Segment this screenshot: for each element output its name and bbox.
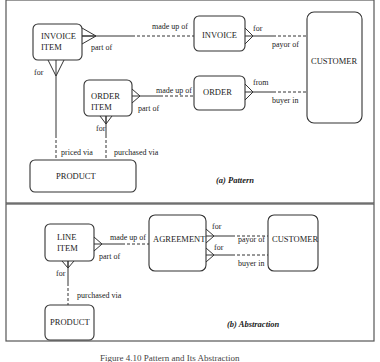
label-part-of: part of — [138, 104, 159, 113]
crows-foot-icon — [100, 116, 112, 124]
svg-text:PRODUCT: PRODUCT — [50, 317, 90, 327]
svg-text:PRODUCT: PRODUCT — [56, 171, 96, 181]
label-for: for — [212, 222, 222, 231]
label-for: for — [214, 243, 224, 252]
label-for: for — [96, 124, 106, 133]
label-payor-of: payor of — [238, 235, 265, 244]
svg-text:LINE: LINE — [57, 232, 76, 242]
label-purchased-via: purchased via — [77, 291, 122, 300]
label-payor-of: payor of — [272, 40, 299, 49]
svg-text:ITEM: ITEM — [41, 42, 62, 52]
svg-text:ITEM: ITEM — [57, 243, 78, 253]
svg-text:ORDER: ORDER — [203, 87, 232, 97]
panel-b: made up of part of for payor of for buye… — [45, 215, 318, 340]
svg-text:CUSTOMER: CUSTOMER — [311, 56, 357, 66]
label-purchased-via: purchased via — [114, 148, 159, 157]
label-from: from — [253, 78, 269, 87]
svg-text:ORDER: ORDER — [91, 91, 120, 101]
label-made-up-of: made up of — [110, 233, 146, 242]
entity-product: PRODUCT — [45, 305, 94, 340]
label-for: for — [253, 24, 263, 33]
crows-foot-icon — [62, 261, 74, 268]
label-part-of: part of — [91, 43, 112, 52]
panel-a: made up of part of for payor of made up … — [30, 12, 362, 192]
label-made-up-of: made up of — [156, 86, 192, 95]
svg-text:INVOICE: INVOICE — [41, 31, 76, 41]
entity-line-item: LINE ITEM — [45, 224, 94, 261]
panel-a-caption: (a) Pattern — [216, 175, 254, 185]
entity-product: PRODUCT — [30, 160, 136, 192]
crows-foot-icon — [82, 28, 96, 44]
label-for: for — [34, 68, 44, 77]
svg-text:INVOICE: INVOICE — [202, 30, 237, 40]
label-part-of: part of — [99, 252, 120, 261]
svg-text:AGREEMENT: AGREEMENT — [153, 234, 206, 244]
entity-customer: CUSTOMER — [268, 215, 318, 271]
entity-agreement: AGREEMENT — [149, 215, 206, 271]
label-for: for — [56, 269, 66, 278]
entity-invoice: INVOICE — [194, 16, 245, 51]
figure-caption: Figure 4.10 Pattern and Its Abstraction — [100, 353, 240, 362]
svg-text:CUSTOMER: CUSTOMER — [272, 234, 318, 244]
er-diagram-canvas: made up of part of for payor of made up … — [0, 0, 380, 362]
label-made-up-of: made up of — [152, 22, 188, 31]
entity-customer: CUSTOMER — [307, 12, 362, 123]
label-buyer-in: buyer in — [272, 96, 298, 105]
entity-order-item: ORDER ITEM — [84, 80, 132, 116]
entity-invoice-item: INVOICE ITEM — [33, 24, 82, 60]
entity-order: ORDER — [194, 76, 245, 110]
label-priced-via: priced via — [61, 148, 93, 157]
label-buyer-in: buyer in — [238, 259, 264, 268]
panel-b-caption: (b) Abstraction — [227, 319, 280, 329]
svg-text:ITEM: ITEM — [91, 102, 112, 112]
